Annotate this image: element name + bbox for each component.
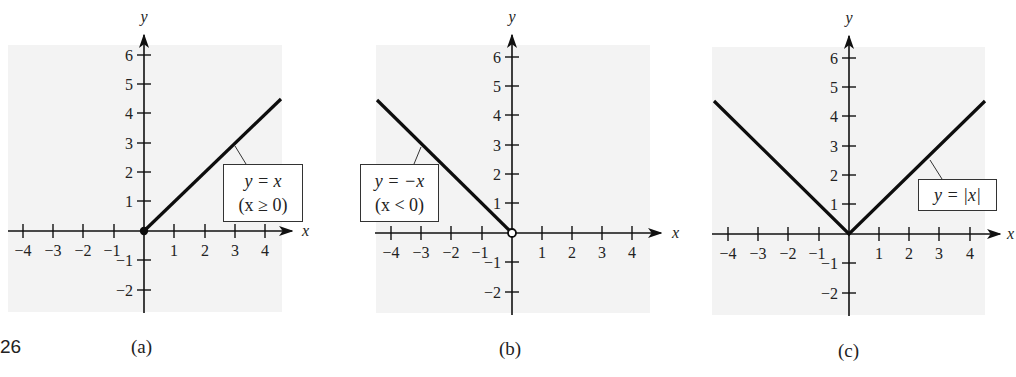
equation-text: y = |x| (919, 183, 996, 207)
svg-text:3: 3 (125, 135, 133, 152)
x-axis-label: x (301, 222, 309, 239)
svg-text:1: 1 (493, 195, 501, 212)
svg-text:2: 2 (201, 242, 209, 259)
svg-text:2: 2 (125, 164, 133, 181)
svg-text:1: 1 (875, 245, 883, 262)
svg-text:4: 4 (830, 108, 838, 125)
svg-text:2: 2 (830, 167, 838, 184)
figure-26: y x −4 −3 −2 −1 1 2 3 4 6 5 4 3 2 1 −1 −… (0, 0, 1016, 377)
closed-dot-icon (140, 227, 148, 235)
svg-text:−2: −2 (484, 284, 501, 301)
svg-text:6: 6 (830, 50, 838, 67)
svg-text:4: 4 (966, 245, 974, 262)
svg-text:3: 3 (231, 242, 239, 259)
svg-text:4: 4 (125, 105, 133, 122)
equation-label-b: y = −x (x < 0) (360, 164, 439, 222)
svg-text:5: 5 (830, 79, 838, 96)
svg-text:−1: −1 (821, 255, 838, 272)
caption-c: (c) (838, 340, 859, 362)
svg-text:−1: −1 (116, 252, 133, 269)
svg-text:−2: −2 (116, 282, 133, 299)
svg-text:−2: −2 (779, 245, 796, 262)
svg-text:−1: −1 (484, 254, 501, 271)
equation-text: y = x (224, 169, 302, 193)
svg-text:6: 6 (125, 47, 133, 64)
svg-text:1: 1 (538, 244, 546, 261)
svg-text:3: 3 (935, 245, 943, 262)
svg-text:−3: −3 (412, 244, 429, 261)
svg-text:5: 5 (493, 78, 501, 95)
svg-text:3: 3 (598, 244, 606, 261)
equation-label-c: y = |x| (918, 179, 997, 211)
svg-text:2: 2 (493, 166, 501, 183)
svg-text:−2: −2 (74, 242, 91, 259)
x-axis-label: x (1006, 225, 1014, 242)
svg-text:−4: −4 (382, 244, 399, 261)
svg-text:−2: −2 (442, 244, 459, 261)
svg-text:3: 3 (830, 138, 838, 155)
svg-text:−3: −3 (749, 245, 766, 262)
svg-text:5: 5 (125, 76, 133, 93)
svg-text:4: 4 (493, 107, 501, 124)
y-axis-label: y (138, 8, 148, 26)
figure-number: 26 (0, 336, 21, 358)
svg-text:2: 2 (905, 245, 913, 262)
open-dot-icon (508, 229, 516, 237)
svg-text:3: 3 (493, 137, 501, 154)
equation-text: y = −x (361, 169, 438, 193)
x-axis-label: x (671, 224, 679, 241)
svg-text:−2: −2 (821, 285, 838, 302)
svg-text:−4: −4 (14, 242, 31, 259)
svg-text:4: 4 (261, 242, 269, 259)
caption-a: (a) (131, 336, 152, 358)
caption-b: (b) (499, 338, 521, 360)
svg-text:4: 4 (628, 244, 636, 261)
equation-label-a: y = x (x ≥ 0) (223, 164, 303, 222)
y-axis-label: y (843, 9, 853, 27)
svg-text:−3: −3 (44, 242, 61, 259)
domain-text: (x < 0) (361, 193, 438, 217)
panel-c (712, 36, 1000, 316)
graphs-canvas: y x −4 −3 −2 −1 1 2 3 4 6 5 4 3 2 1 −1 −… (0, 0, 1016, 377)
svg-text:6: 6 (493, 49, 501, 66)
svg-text:1: 1 (125, 193, 133, 210)
svg-text:−4: −4 (719, 245, 736, 262)
svg-text:1: 1 (830, 196, 838, 213)
domain-text: (x ≥ 0) (224, 193, 302, 217)
svg-text:2: 2 (568, 244, 576, 261)
y-axis-label: y (506, 8, 516, 26)
svg-text:1: 1 (170, 242, 178, 259)
